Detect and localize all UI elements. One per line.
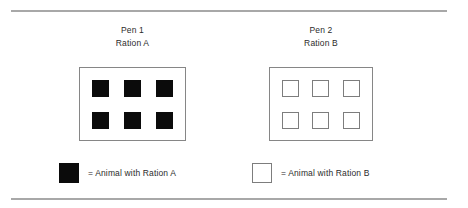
pen-diagram-figure: Pen 1 Ration A Pen 2 Ration B = Animal w… — [0, 0, 468, 208]
animal-icon — [124, 112, 141, 129]
animal-icon — [92, 112, 109, 129]
pen-1-ration: Ration A — [79, 37, 186, 50]
animal-icon — [312, 80, 329, 97]
animal-icon — [124, 80, 141, 97]
top-divider-rule — [11, 10, 447, 12]
pen-2-ration: Ration B — [269, 37, 373, 50]
pen-1-enclosure — [79, 67, 186, 141]
legend-item-ration-a: = Animal with Ration A — [59, 163, 176, 183]
pen-1-animal-grid — [80, 68, 185, 140]
animal-icon — [282, 112, 299, 129]
legend-label-ration-a: = Animal with Ration A — [88, 168, 176, 178]
legend-swatch-hollow-icon — [252, 163, 272, 183]
pen-2-animal-grid — [270, 68, 372, 140]
animal-icon — [282, 80, 299, 97]
animal-icon — [156, 112, 173, 129]
animal-icon — [92, 80, 109, 97]
pen-1-name: Pen 1 — [79, 24, 186, 37]
pen-2-caption: Pen 2 Ration B — [269, 24, 373, 49]
legend-label-ration-b: = Animal with Ration B — [281, 168, 370, 178]
pen-2-name: Pen 2 — [269, 24, 373, 37]
animal-icon — [156, 80, 173, 97]
legend-swatch-filled-icon — [59, 163, 79, 183]
animal-icon — [343, 112, 360, 129]
animal-icon — [343, 80, 360, 97]
animal-icon — [312, 112, 329, 129]
legend-item-ration-b: = Animal with Ration B — [252, 163, 370, 183]
pen-2-enclosure — [269, 67, 373, 141]
pen-1-caption: Pen 1 Ration A — [79, 24, 186, 49]
bottom-divider-rule — [11, 198, 447, 200]
